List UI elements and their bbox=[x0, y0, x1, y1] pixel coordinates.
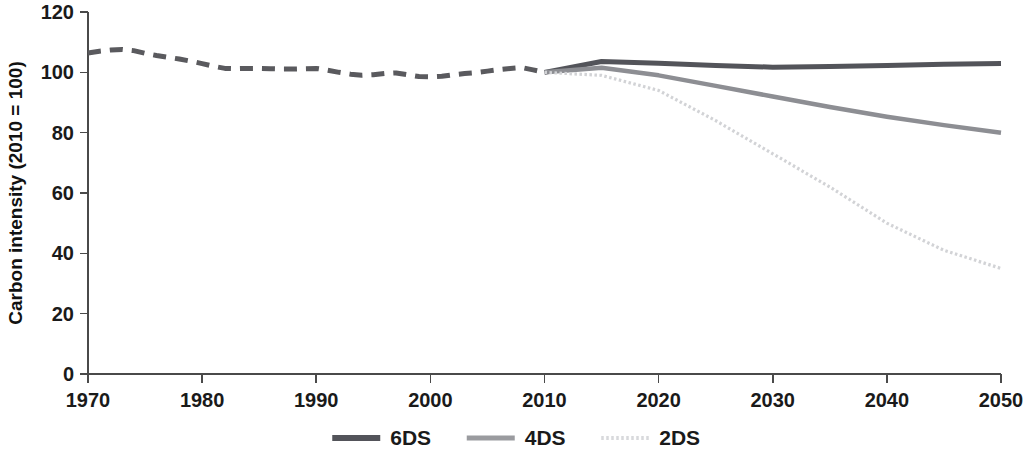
chart-figure: 020406080100120 197019801990200020102020… bbox=[0, 0, 1032, 456]
legend-label-2DS: 2DS bbox=[659, 426, 700, 449]
y-tick-label: 80 bbox=[52, 122, 74, 144]
y-tick-label: 0 bbox=[63, 363, 74, 385]
x-tick-label: 2050 bbox=[979, 389, 1024, 411]
x-tick-label: 2040 bbox=[865, 389, 910, 411]
x-tick-label: 1980 bbox=[180, 389, 225, 411]
y-tick-label: 40 bbox=[52, 242, 74, 264]
y-tick-label: 100 bbox=[41, 61, 74, 83]
legend-label-4DS: 4DS bbox=[525, 426, 566, 449]
y-tick-label: 120 bbox=[41, 1, 74, 23]
x-tick-label: 1970 bbox=[66, 389, 111, 411]
carbon-intensity-line-chart: 020406080100120 197019801990200020102020… bbox=[0, 0, 1032, 456]
x-tick-label: 2010 bbox=[522, 389, 567, 411]
x-tick-label: 1990 bbox=[294, 389, 339, 411]
legend-label-6DS: 6DS bbox=[390, 426, 431, 449]
chart-background bbox=[0, 0, 1032, 456]
y-tick-label: 20 bbox=[52, 303, 74, 325]
y-tick-label: 60 bbox=[52, 182, 74, 204]
x-tick-label: 2020 bbox=[636, 389, 681, 411]
x-tick-label: 2000 bbox=[408, 389, 453, 411]
x-tick-label: 2030 bbox=[751, 389, 796, 411]
y-axis-title: Carbon intensity (2010 = 100) bbox=[5, 61, 26, 324]
